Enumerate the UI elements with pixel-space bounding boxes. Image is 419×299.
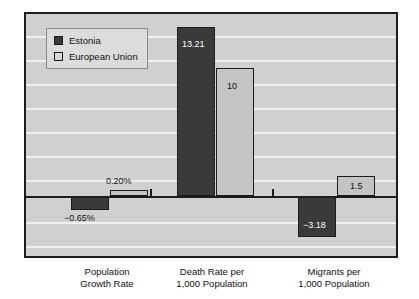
legend: Estonia European Union	[46, 28, 148, 69]
axis-tick	[272, 189, 274, 196]
legend-item-european-union[interactable]: European Union	[54, 50, 138, 63]
bar-estonia-migrants[interactable]	[298, 196, 336, 237]
legend-label-european-union: European Union	[69, 51, 138, 62]
gridline	[26, 246, 396, 248]
legend-label-estonia: Estonia	[69, 35, 101, 46]
category-label-line-1: Death Rate per	[152, 266, 272, 278]
bar-label-eu-death-rate: 10	[227, 81, 237, 91]
legend-swatch-estonia-icon	[54, 36, 63, 45]
category-label-line-2: Growth Rate	[47, 278, 167, 290]
axis-tick	[150, 189, 152, 196]
zero-axis-line	[26, 196, 396, 198]
plot-area: −0.65% 0.20% 13.21 10 −3.18 1.5 Estonia	[24, 12, 398, 258]
category-label-migrants: Migrants per 1,000 Population	[274, 266, 394, 290]
category-label-line-1: Population	[47, 266, 167, 278]
legend-swatch-european-union-icon	[54, 52, 63, 61]
bar-label-estonia-death-rate: 13.21	[182, 39, 205, 49]
bar-label-eu-population-growth-rate: 0.20%	[106, 176, 132, 186]
x-axis-category-labels: Population Growth Rate Death Rate per 1,…	[24, 266, 398, 296]
bar-label-estonia-population-growth-rate: −0.65%	[64, 213, 95, 223]
category-label-line-2: 1,000 Population	[152, 278, 272, 290]
category-label-line-1: Migrants per	[274, 266, 394, 278]
bar-label-estonia-migrants: −3.18	[303, 220, 326, 230]
category-label-population-growth-rate: Population Growth Rate	[47, 266, 167, 290]
bar-estonia-death-rate[interactable]	[177, 27, 215, 196]
bar-estonia-population-growth-rate[interactable]	[71, 196, 109, 210]
category-label-death-rate: Death Rate per 1,000 Population	[152, 266, 272, 290]
bar-chart: −0.65% 0.20% 13.21 10 −3.18 1.5 Estonia	[0, 0, 419, 299]
bar-label-eu-migrants: 1.5	[350, 181, 363, 191]
legend-item-estonia[interactable]: Estonia	[54, 34, 138, 47]
category-label-line-2: 1,000 Population	[274, 278, 394, 290]
